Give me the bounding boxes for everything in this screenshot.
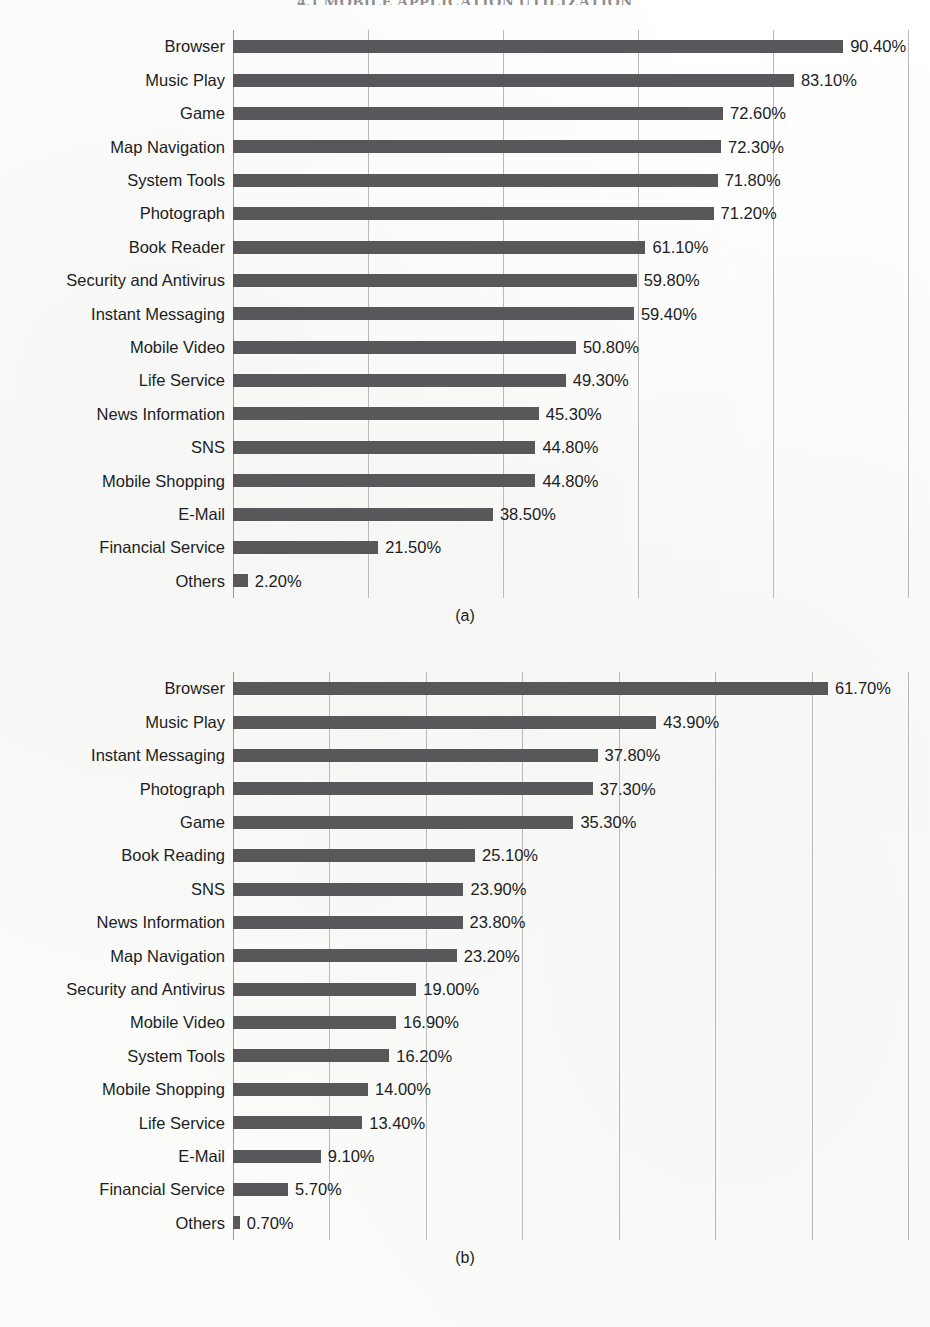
bar — [233, 916, 463, 929]
bar-track: 59.40% — [233, 297, 930, 330]
chart-b-bar-row: Financial Service5.70% — [0, 1173, 930, 1206]
category-label: Instant Messaging — [0, 306, 233, 323]
chart-a-bar-row: Music Play83.10% — [0, 63, 930, 96]
running-head: 4.1 MOBILE APPLICATION UTILIZATION — [0, 0, 930, 5]
bar-track: 23.20% — [233, 939, 930, 972]
category-label: Photograph — [0, 205, 233, 222]
chart-a-plot-area: Browser90.40%Music Play83.10%Game72.60%M… — [0, 30, 930, 598]
bar-track: 16.90% — [233, 1006, 930, 1039]
chart-b-bar-row: Life Service13.40% — [0, 1106, 930, 1139]
bar-value-label: 38.50% — [493, 506, 556, 523]
chart-b-bar-row: Book Reading25.10% — [0, 839, 930, 872]
category-label: System Tools — [0, 1048, 233, 1065]
bar-track: 71.80% — [233, 164, 930, 197]
bar — [233, 474, 535, 487]
bar-track: 45.30% — [233, 397, 930, 430]
bar-value-label: 21.50% — [378, 539, 441, 556]
bar-track: 9.10% — [233, 1139, 930, 1172]
category-label: Life Service — [0, 372, 233, 389]
chart-a-bar-row: Instant Messaging59.40% — [0, 297, 930, 330]
bar — [233, 508, 493, 521]
bar — [233, 816, 573, 829]
bar-value-label: 72.30% — [721, 139, 784, 156]
bar-value-label: 23.80% — [463, 914, 526, 931]
category-label: Mobile Video — [0, 1014, 233, 1031]
bar — [233, 441, 535, 454]
category-label: E-Mail — [0, 506, 233, 523]
bar — [233, 40, 843, 53]
bar-value-label: 83.10% — [794, 72, 857, 89]
bar — [233, 574, 248, 587]
bar-value-label: 59.80% — [637, 272, 700, 289]
bar-track: 37.80% — [233, 739, 930, 772]
chart-b-bar-row: Mobile Video16.90% — [0, 1006, 930, 1039]
category-label: Mobile Video — [0, 339, 233, 356]
category-label: Security and Antivirus — [0, 981, 233, 998]
bar-track: 21.50% — [233, 531, 930, 564]
chart-b-bar-row: Map Navigation23.20% — [0, 939, 930, 972]
bar-value-label: 37.30% — [593, 781, 656, 798]
category-label: Photograph — [0, 781, 233, 798]
bar — [233, 374, 566, 387]
category-label: Music Play — [0, 72, 233, 89]
chart-a-bar-row: SNS44.80% — [0, 431, 930, 464]
category-label: Book Reader — [0, 239, 233, 256]
figure-b: Browser61.70%Music Play43.90%Instant Mes… — [0, 672, 930, 1267]
category-label: Security and Antivirus — [0, 272, 233, 289]
bar-track: 71.20% — [233, 197, 930, 230]
chart-b-bar-row: System Tools16.20% — [0, 1039, 930, 1072]
bar — [233, 1150, 321, 1163]
chart-b-rows: Browser61.70%Music Play43.90%Instant Mes… — [0, 672, 930, 1240]
bar-value-label: 16.20% — [389, 1048, 452, 1065]
bar — [233, 849, 475, 862]
chart-a-bar-row: Mobile Shopping44.80% — [0, 464, 930, 497]
bar-value-label: 71.80% — [718, 172, 781, 189]
chart-b-bar-row: Game35.30% — [0, 806, 930, 839]
bar-value-label: 50.80% — [576, 339, 639, 356]
category-label: Game — [0, 814, 233, 831]
bar-value-label: 23.20% — [457, 948, 520, 965]
chart-a-bar-row: Book Reader61.10% — [0, 230, 930, 263]
chart-a-bar-row: Photograph71.20% — [0, 197, 930, 230]
chart-a-bar-row: Others2.20% — [0, 564, 930, 597]
category-label: Financial Service — [0, 539, 233, 556]
chart-b-bar-row: News Information23.80% — [0, 906, 930, 939]
chart-b-bar-row: Browser61.70% — [0, 672, 930, 705]
chart-a-rows: Browser90.40%Music Play83.10%Game72.60%M… — [0, 30, 930, 598]
figure-b-caption: (b) — [0, 1249, 930, 1267]
bar-track: 0.70% — [233, 1206, 930, 1239]
bar-track: 13.40% — [233, 1106, 930, 1139]
bar-track: 90.40% — [233, 30, 930, 63]
bar-value-label: 90.40% — [843, 38, 906, 55]
bar-value-label: 16.90% — [396, 1014, 459, 1031]
chart-b-bar-row: Instant Messaging37.80% — [0, 739, 930, 772]
bar-value-label: 0.70% — [240, 1215, 294, 1232]
bar — [233, 107, 723, 120]
bar — [233, 1183, 288, 1196]
category-label: Music Play — [0, 714, 233, 731]
bar-value-label: 13.40% — [362, 1115, 425, 1132]
chart-a-bar-row: Security and Antivirus59.80% — [0, 264, 930, 297]
bar-track: 35.30% — [233, 806, 930, 839]
bar — [233, 1016, 396, 1029]
bar-track: 49.30% — [233, 364, 930, 397]
category-label: Book Reading — [0, 847, 233, 864]
bar — [233, 749, 598, 762]
category-label: SNS — [0, 439, 233, 456]
bar — [233, 949, 457, 962]
bar-value-label: 9.10% — [321, 1148, 375, 1165]
chart-b-bar-row: Mobile Shopping14.00% — [0, 1073, 930, 1106]
bar — [233, 241, 645, 254]
bar — [233, 207, 714, 220]
bar-value-label: 23.90% — [463, 881, 526, 898]
category-label: News Information — [0, 914, 233, 931]
chart-a-bar-row: Life Service49.30% — [0, 364, 930, 397]
category-label: Others — [0, 1215, 233, 1232]
bar-track: 23.90% — [233, 872, 930, 905]
category-label: Map Navigation — [0, 139, 233, 156]
bar — [233, 140, 721, 153]
category-label: Game — [0, 105, 233, 122]
bar-track: 43.90% — [233, 705, 930, 738]
category-label: E-Mail — [0, 1148, 233, 1165]
bar — [233, 782, 593, 795]
